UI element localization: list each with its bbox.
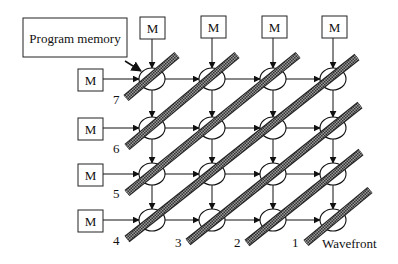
memory-label: M xyxy=(147,21,159,36)
program-memory-label: Program memory xyxy=(29,31,121,46)
memory-label: M xyxy=(85,214,97,229)
wavefront-number-label: 5 xyxy=(113,186,120,201)
wavefront-number-label: 2 xyxy=(234,235,241,250)
memory-label: M xyxy=(85,122,97,137)
wavefront-number-label: 4 xyxy=(113,233,120,248)
memory-label: M xyxy=(85,73,97,88)
memory-label: M xyxy=(85,168,97,183)
memory-label: M xyxy=(269,20,281,35)
wavefront-number-label: 1 xyxy=(292,235,299,250)
program-memory-arrow xyxy=(125,61,141,71)
wavefront-caption: Wavefront xyxy=(322,236,377,251)
memory-label: M xyxy=(329,20,341,35)
memory-label: M xyxy=(208,20,220,35)
systolic-array-diagram: MMMMMMMMProgram memory 7654321Wavefront xyxy=(0,0,398,264)
wavefront-number-label: 6 xyxy=(113,141,120,156)
wavefront-number-label: 7 xyxy=(113,92,120,107)
wavefront-number-label: 3 xyxy=(175,235,182,250)
